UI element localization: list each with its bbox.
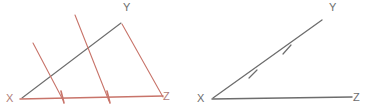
right-diagram: X Y Z <box>197 1 360 104</box>
right-vertex-label-z: Z <box>353 91 360 103</box>
left-construction-line-1 <box>33 43 63 100</box>
left-vertex-label-z: Z <box>163 90 170 102</box>
left-vertex-label-y: Y <box>123 1 131 13</box>
left-construction-line-3 <box>122 24 163 97</box>
left-ray-xy <box>22 23 121 98</box>
figure-canvas: X Y Z X Y Z <box>0 0 371 112</box>
right-ray-xy <box>213 20 322 98</box>
geometry-figure: X Y Z X Y Z <box>0 0 371 112</box>
left-ray-xz <box>20 96 163 99</box>
left-construction-line-2 <box>75 15 109 101</box>
left-vertex-label-x: X <box>6 92 14 104</box>
right-vertex-label-y: Y <box>329 1 337 13</box>
left-diagram: X Y Z <box>6 1 170 104</box>
right-vertex-label-x: X <box>197 92 205 104</box>
right-ray-xz <box>212 97 352 99</box>
